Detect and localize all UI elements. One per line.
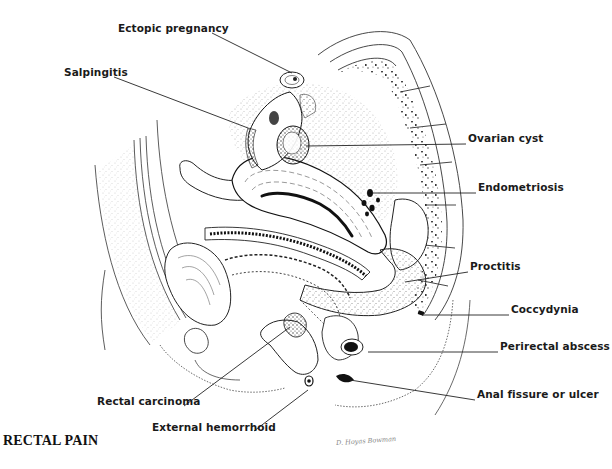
leader-line-ectopic-pregnancy (212, 33, 292, 73)
anal-fissure-mark (336, 374, 354, 382)
figure-title: RECTAL PAIN (3, 433, 98, 449)
label-proctitis: Proctitis (470, 260, 521, 272)
label-ovarian-cyst: Ovarian cyst (468, 132, 543, 144)
fat-layer-texture (98, 145, 180, 342)
label-anal-fissure-or-ulcer: Anal fissure or ulcer (477, 388, 599, 400)
anal-canal (261, 310, 425, 386)
label-ectopic-pregnancy: Ectopic pregnancy (118, 22, 229, 34)
label-salpingitis: Salpingitis (64, 66, 128, 78)
label-rectal-carcinoma: Rectal carcinoma (97, 395, 200, 407)
label-endometriosis: Endometriosis (478, 181, 564, 193)
pubic-bone (184, 328, 208, 353)
leader-line-anal-fissure-or-ulcer (350, 380, 475, 400)
label-perirectal-abscess: Perirectal abscess (500, 340, 610, 352)
leader-line-salpingitis (114, 77, 248, 128)
label-coccydynia: Coccydynia (511, 303, 579, 315)
label-external-hemorrhoid: External hemorrhoid (152, 421, 276, 433)
ectopic-pregnancy-shape (280, 72, 304, 88)
anatomical-illustration: Ectopic pregnancySalpingitisOvarian cyst… (0, 0, 612, 469)
